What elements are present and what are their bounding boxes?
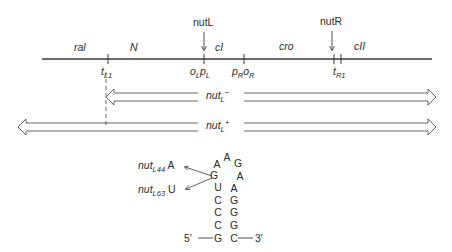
nuc-loop-0: A <box>222 152 232 163</box>
transcript-label-nutL-minus: nutL− <box>206 90 229 101</box>
nuc-right-4: G <box>229 220 239 231</box>
marker-tR1: tR1 <box>333 66 346 77</box>
nuc-loop-1: G <box>233 158 243 169</box>
nuc-left-5: G <box>209 170 219 181</box>
site-label-nutL: nutL <box>193 17 213 28</box>
gene-label-cII: cII <box>354 41 365 52</box>
nuc-left-3: C <box>213 195 223 206</box>
gene-label-N: N <box>130 42 138 53</box>
mutation-label-L63: nutL63 U <box>138 184 176 195</box>
nuc-right-3: G <box>229 207 239 218</box>
site-label-nutR: nutR <box>320 16 342 27</box>
nuc-right-2: G <box>229 195 239 206</box>
transcript-nutL-minus <box>106 89 436 105</box>
nuc-left-4: U <box>213 182 223 193</box>
nuc-left-2: C <box>213 207 223 218</box>
nuc-left-1: C <box>213 220 223 231</box>
gene-label-cro: cro <box>279 41 294 52</box>
nuc-right-1: A <box>229 183 239 194</box>
gene-label-ral: ral <box>74 42 86 53</box>
mutation-arrow-L44 <box>185 167 212 176</box>
marker-pRoR: pRoR <box>232 66 255 77</box>
mutation-label-L44: nutL44 A <box>138 160 174 171</box>
marker-oLpL: oLpL <box>190 66 210 77</box>
marker-tL1: tL1 <box>101 66 112 77</box>
nuc-left-6: A <box>212 159 222 170</box>
five-prime-label: 5′ <box>184 233 192 244</box>
nuc-right-0: A <box>235 171 245 182</box>
gene-label-cI: cI <box>215 42 223 53</box>
three-prime-label: 3′ <box>255 233 263 244</box>
transcript-label-nutL-plus: nutL+ <box>206 120 229 131</box>
nuc-left-0: G <box>213 233 223 244</box>
nuc-right-5: C <box>229 233 239 244</box>
